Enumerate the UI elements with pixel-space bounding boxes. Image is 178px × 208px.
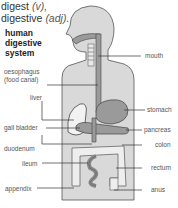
- label-rectum: rectum: [151, 164, 171, 172]
- label-liver: liver: [30, 94, 42, 102]
- label-appendix: appendix: [5, 185, 31, 193]
- duodenum: [92, 118, 96, 142]
- label-mouth: mouth: [145, 52, 163, 60]
- oesophagus-tube: [96, 34, 101, 112]
- label-anus: anus: [151, 186, 165, 194]
- label-pancreas: pancreas: [144, 126, 171, 134]
- rectum: [110, 178, 118, 190]
- label-duodenum: duodenum: [4, 145, 35, 153]
- label-ileum: ileum: [22, 160, 38, 168]
- label-gall-bladder: gall bladder: [4, 124, 38, 132]
- stomach: [96, 100, 128, 124]
- digestive-system-illustration: [0, 0, 178, 208]
- label-colon: colon: [155, 141, 171, 149]
- label-oesophagus: oesophagus: [4, 68, 39, 76]
- label-stomach: stomach: [147, 106, 172, 114]
- label-food-canal: (food canal): [4, 76, 38, 84]
- trachea: [88, 44, 94, 66]
